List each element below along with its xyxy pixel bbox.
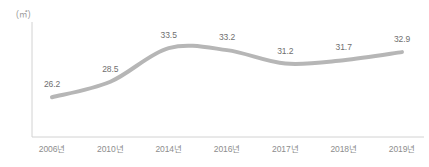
value-label: 33.5	[161, 30, 177, 40]
x-tick-label: 2018년	[330, 142, 356, 154]
value-label: 33.2	[219, 32, 235, 42]
x-tick-label: 2016년	[214, 142, 240, 154]
value-label: 31.7	[336, 42, 352, 52]
value-label: 31.2	[277, 46, 293, 56]
value-label: 32.9	[394, 34, 410, 44]
x-tick-label: 2014년	[155, 142, 181, 154]
value-label: 28.5	[102, 64, 118, 74]
value-label: 26.2	[44, 79, 60, 89]
x-tick-label: 2006년	[39, 142, 65, 154]
x-tick-label: 2019년	[389, 142, 415, 154]
x-tick-label: 2010년	[97, 142, 123, 154]
line-chart: (㎡) 26.228.533.533.231.231.732.9 2006년20…	[0, 0, 429, 167]
x-tick-label: 2017년	[272, 142, 298, 154]
